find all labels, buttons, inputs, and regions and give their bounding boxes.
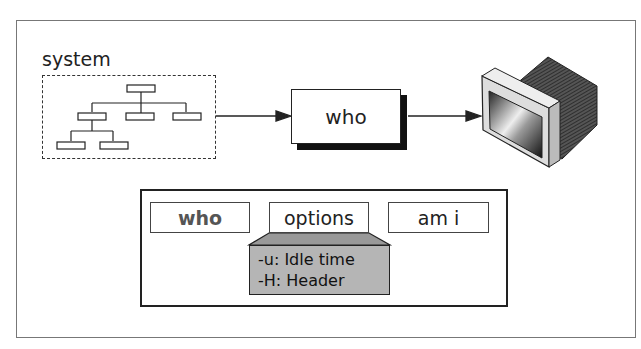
who-process-box: who (291, 89, 401, 144)
option-item: -H: Header (258, 270, 389, 291)
command-options: options (269, 202, 369, 233)
options-panel: -u: Idle time -H: Header (249, 245, 390, 295)
command-am-i: am i (388, 202, 489, 233)
option-item: -u: Idle time (258, 249, 389, 270)
command-who: who (150, 202, 250, 233)
monitor-icon (482, 57, 597, 167)
